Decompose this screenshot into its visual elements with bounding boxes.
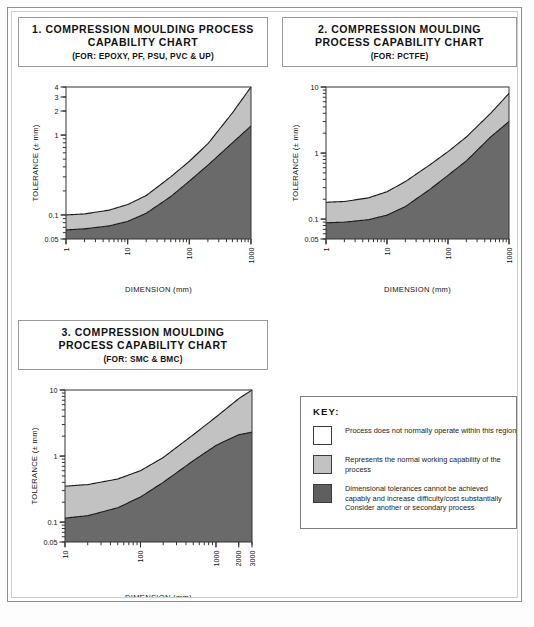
x-tick-label: 1: [322, 248, 331, 252]
chart-y-axis: [321, 87, 326, 239]
chart-1-subtitle: (FOR: EPOXY, PF, PSU, PVC & UP): [23, 51, 263, 61]
x-tick-label: 3000: [248, 551, 257, 567]
chart-3-title-box: 3. COMPRESSION MOULDING PROCESS CAPABILI…: [18, 320, 268, 370]
chart-2-title-line1: 2. COMPRESSION MOULDING: [287, 23, 512, 36]
chart-x-axis: [65, 542, 252, 547]
x-tick-label: 1000: [212, 551, 221, 567]
key-swatch-white: [313, 426, 332, 445]
y-tick-label: 0.1: [49, 211, 59, 220]
x-tick-label: 100: [136, 551, 145, 563]
x-tick-label: 100: [444, 248, 453, 260]
key-title: KEY:: [313, 406, 506, 417]
y-tick-label: 10: [311, 83, 319, 92]
y-tick-label: 0.05: [305, 235, 319, 244]
key-text-light: Represents the normal working capability…: [345, 454, 501, 474]
y-tick-label: 10: [50, 386, 58, 395]
x-tick-label: 1: [62, 248, 71, 252]
key-legend-box: KEY: Process does not normally operate w…: [300, 396, 517, 529]
chart-1-title-line2: CAPABILITY CHART: [23, 36, 263, 49]
y-tick-label: 3: [55, 93, 59, 102]
chart-panel-1: 1. COMPRESSION MOULDING PROCESS CAPABILI…: [18, 17, 268, 307]
chart-1-plot-wrap: 0.050.112341101001000TOLERANCE (± mm)DIM…: [18, 79, 268, 294]
chart-2-plot-wrap: 0.050.11101101001000TOLERANCE (± mm)DIME…: [282, 79, 517, 294]
chart-y-tick-labels: 0.050.1110: [44, 386, 66, 547]
chart-x-axis-title: DIMENSION (mm): [384, 285, 451, 294]
y-tick-label: 0.1: [48, 518, 58, 527]
key-text-light-line-2: process: [345, 465, 501, 475]
chart-y-axis-title: TOLERANCE (± mm): [30, 427, 39, 504]
y-tick-label: 1: [54, 452, 58, 461]
y-tick-label: 0.05: [45, 235, 59, 244]
key-row-light: Represents the normal working capability…: [313, 454, 506, 474]
key-swatch-light: [313, 455, 332, 474]
key-text-light-line-1: Represents the normal working capability…: [345, 455, 501, 465]
x-tick-label: 1000: [247, 248, 256, 264]
chart-x-axis-title: DIMENSION (mm): [125, 593, 192, 597]
chart-x-tick-labels: 1101001000: [62, 239, 256, 264]
chart-panel-3: 3. COMPRESSION MOULDING PROCESS CAPABILI…: [18, 320, 283, 595]
key-swatch-dark: [313, 484, 332, 503]
x-tick-label: 1000: [505, 248, 514, 264]
key-text-dark-line-2: capably and increase difficulty/cost sub…: [345, 494, 502, 504]
chart-y-axis-title: TOLERANCE (± mm): [31, 124, 40, 201]
y-tick-label: 1: [315, 149, 319, 158]
chart-3-plot-wrap: 0.050.111010100100020003000TOLERANCE (± …: [18, 382, 283, 597]
y-tick-label: 1: [55, 131, 59, 140]
chart-3-title-line1: 3. COMPRESSION MOULDING: [23, 326, 263, 339]
chart-x-tick-labels: 1101001000: [322, 239, 514, 264]
page-root: 1. COMPRESSION MOULDING PROCESS CAPABILI…: [0, 0, 534, 627]
chart-x-axis: [66, 239, 251, 244]
x-tick-label: 10: [383, 248, 392, 256]
x-tick-label: 100: [185, 248, 194, 260]
chart-2-subtitle: (FOR: PCTFE): [287, 51, 512, 61]
y-tick-label: 0.1: [309, 215, 319, 224]
key-text-dark-line-3: Consider another or secondary process: [345, 503, 502, 513]
chart-y-axis-title: TOLERANCE (± mm): [291, 124, 300, 201]
key-text-white-line-1: Process does not normally operate within…: [345, 426, 516, 436]
key-row-white: Process does not normally operate within…: [313, 425, 506, 445]
chart-y-axis: [60, 390, 65, 542]
key-row-dark: Dimensional tolerances cannot be achieve…: [313, 483, 506, 513]
key-text-dark-line-1: Dimensional tolerances cannot be achieve…: [345, 484, 502, 494]
chart-2-title-box: 2. COMPRESSION MOULDING PROCESS CAPABILI…: [282, 17, 517, 67]
chart-x-axis-title: DIMENSION (mm): [125, 285, 192, 294]
chart-y-tick-labels: 0.050.11234: [45, 83, 67, 244]
chart-2-title-line2: PROCESS CAPABILITY CHART: [287, 36, 512, 49]
x-tick-label: 2000: [234, 551, 243, 567]
key-text-dark: Dimensional tolerances cannot be achieve…: [345, 483, 502, 513]
chart-3-svg: 0.050.111010100100020003000TOLERANCE (± …: [18, 382, 278, 597]
chart-3-subtitle: (FOR: SMC & BMC): [23, 354, 263, 364]
y-tick-label: 2: [55, 107, 59, 116]
key-text-white: Process does not normally operate within…: [345, 425, 516, 436]
y-tick-label: 4: [55, 83, 59, 92]
chart-1-title-box: 1. COMPRESSION MOULDING PROCESS CAPABILI…: [18, 17, 268, 67]
y-tick-label: 0.05: [44, 538, 58, 547]
chart-3-title-line2: PROCESS CAPABILITY CHART: [23, 339, 263, 352]
chart-x-tick-labels: 10100100020003000: [61, 542, 257, 567]
chart-y-tick-labels: 0.050.1110: [305, 83, 327, 244]
chart-y-axis: [61, 87, 66, 239]
chart-2-svg: 0.050.11101101001000TOLERANCE (± mm)DIME…: [282, 79, 517, 294]
x-tick-label: 10: [123, 248, 132, 256]
chart-x-axis: [326, 239, 509, 244]
x-tick-label: 10: [61, 551, 70, 559]
chart-panel-2: 2. COMPRESSION MOULDING PROCESS CAPABILI…: [282, 17, 517, 307]
chart-1-svg: 0.050.112341101001000TOLERANCE (± mm)DIM…: [18, 79, 268, 294]
chart-1-title-line1: 1. COMPRESSION MOULDING PROCESS: [23, 23, 263, 36]
